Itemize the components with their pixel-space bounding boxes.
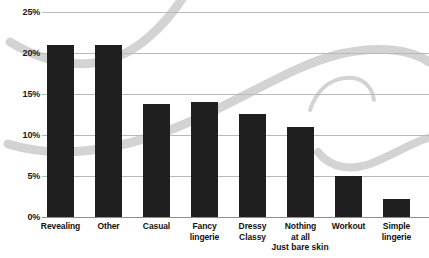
bar-chart: 25% 20% 15% 10% 5% 0% Revealing Other Ca… — [0, 0, 429, 258]
x-axis-label-simple-lingerie: Simple lingerie — [364, 221, 429, 242]
y-axis-tick-5: 5% — [27, 172, 40, 181]
y-axis-tick-15: 15% — [23, 90, 40, 99]
labels-group: 25% 20% 15% 10% 5% 0% Revealing Other Ca… — [0, 0, 429, 258]
y-axis-tick-20: 20% — [23, 49, 40, 58]
bare-skin-note: Just bare skin — [250, 242, 350, 253]
y-axis-tick-10: 10% — [23, 131, 40, 140]
y-axis-tick-25: 25% — [23, 8, 40, 17]
